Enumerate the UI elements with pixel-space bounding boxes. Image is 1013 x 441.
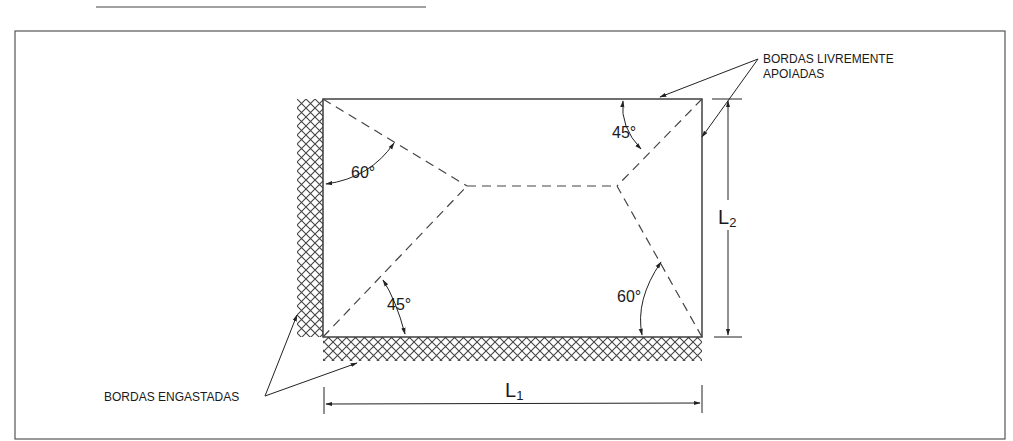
dimension-l1-label: L1 xyxy=(505,379,523,403)
free-edges-leaders xyxy=(660,59,758,137)
plate-outline xyxy=(323,99,702,337)
angle-label-top-right: 45° xyxy=(612,124,636,141)
angle-label-bottom-left: 45° xyxy=(387,296,411,313)
figure-frame xyxy=(15,31,1005,439)
bottom-clamped-hatch xyxy=(323,337,702,361)
angle-label-top-left: 60° xyxy=(351,164,375,181)
angle-label-bottom-right: 60° xyxy=(617,288,641,305)
free-edges-label-line2: APOIADAS xyxy=(763,67,824,81)
angle-arcs xyxy=(326,101,661,335)
slab-diagram: 60° 45° 45° 60° BORDAS LIVREMENTE APOIAD… xyxy=(0,0,1013,441)
clamped-edges-label: BORDAS ENGASTADAS xyxy=(104,390,239,404)
dimension-l2-label: L2 xyxy=(718,206,736,230)
left-clamped-hatch xyxy=(297,99,323,337)
free-edges-label-line1: BORDAS LIVREMENTE xyxy=(763,52,894,66)
yield-lines xyxy=(323,99,702,337)
